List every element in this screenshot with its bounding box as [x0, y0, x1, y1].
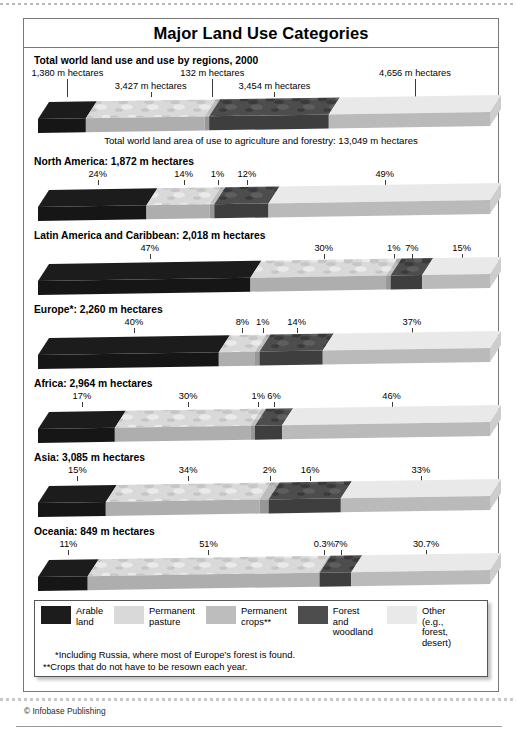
value-label: 2%	[263, 465, 276, 476]
value-label: 15%	[68, 465, 87, 476]
bar-segment-top	[38, 188, 157, 207]
bar-segment-front	[422, 274, 490, 289]
bar-container	[32, 257, 490, 295]
bar-segment-front	[209, 114, 329, 130]
bar-segment-top	[259, 334, 333, 352]
legend-swatch	[41, 606, 71, 624]
bar-segment-front	[38, 205, 146, 221]
bar-segment-front	[323, 348, 490, 365]
bar-segment-top	[115, 409, 262, 428]
world-total-caption: Total world land area of use to agricult…	[32, 135, 490, 147]
bar-segment-front	[214, 203, 268, 218]
legend-item: Arable land	[41, 606, 103, 627]
value-label: 6%	[267, 391, 280, 402]
bar-container	[32, 405, 490, 443]
bar-row: Europe*: 2,260 m hectares40%8%1%14%37%	[32, 304, 490, 369]
bar-segment-top	[269, 481, 352, 499]
bar-segment-front	[269, 498, 341, 513]
row-value-labels: 17%30%1%6%46%	[32, 391, 490, 405]
bar-row: Asia: 3,085 m hectares15%34%2%16%33%	[32, 452, 490, 517]
bar-3d	[32, 331, 502, 371]
legend-footnote-1: *Including Russia, where most of Europe’…	[55, 649, 481, 660]
bar-segment-front	[38, 428, 115, 443]
chart-body: Total world land use and use by regions,…	[24, 48, 498, 677]
value-label: 7%	[334, 539, 347, 550]
bar-segment-front	[106, 500, 260, 516]
value-label: 3,454 m hectares	[239, 81, 311, 92]
value-label: 1%	[211, 169, 224, 180]
bar-segment-top	[38, 261, 261, 281]
bar-segment-top	[250, 259, 397, 278]
bar-segment-front	[38, 576, 88, 591]
bar-segment-top	[269, 183, 501, 203]
legend-label: Permanent pasture	[149, 606, 195, 627]
value-label: 40%	[125, 317, 144, 328]
bar-segment-front	[341, 496, 490, 512]
row-heading: North America: 1,872 m hectares	[34, 156, 490, 168]
bar-segment-front	[146, 204, 209, 219]
bar-segment-front	[318, 573, 319, 587]
value-label: 11%	[59, 539, 77, 550]
bar-segment-top	[329, 95, 501, 114]
value-label: 51%	[199, 539, 218, 550]
row-value-labels: 47%30%1%7%15%	[32, 243, 490, 257]
legend-item: Permanent crops**	[206, 606, 287, 627]
value-label: 15%	[452, 243, 471, 254]
bar-segment-front	[320, 572, 352, 586]
legend-label: Arable land	[76, 606, 103, 627]
bar-segment-front	[38, 352, 219, 369]
bar-segment-top	[38, 485, 117, 503]
bar-segment-top	[351, 553, 501, 572]
row-heading: Oceania: 849 m hectares	[34, 526, 490, 538]
bar-segment-front	[38, 502, 106, 517]
bar-row: Oceania: 849 m hectares11%51%0.3%7%30.7%	[32, 526, 490, 591]
row-value-labels: 40%8%1%14%37%	[32, 317, 490, 331]
value-label: 4,656 m hectares	[379, 68, 451, 79]
row-heading: Total world land use and use by regions,…	[34, 55, 490, 67]
legend-item: Forest and woodland	[298, 606, 376, 638]
bar-segment-front	[255, 352, 260, 366]
bar-segment-front	[386, 276, 391, 290]
row-value-labels: 15%34%2%16%33%	[32, 465, 490, 479]
value-label: 1%	[256, 317, 269, 328]
legend-item: Other (e.g., forest, desert)	[387, 606, 470, 648]
value-label: 33%	[412, 465, 431, 476]
bar-segment-front	[250, 426, 255, 440]
row-heading: Europe*: 2,260 m hectares	[34, 304, 490, 316]
bar-segment-top	[422, 257, 501, 275]
chart-panel: Major Land Use Categories Total world la…	[23, 18, 499, 692]
value-label: 24%	[88, 169, 107, 180]
value-label: 8%	[236, 317, 249, 328]
page-title: Major Land Use Categories	[153, 24, 368, 43]
legend-label: Other (e.g., forest, desert)	[422, 606, 470, 648]
value-label: 7%	[405, 243, 418, 254]
bar-3d	[32, 183, 502, 223]
bar-segment-top	[38, 335, 230, 355]
legend-item: Permanent pasture	[114, 606, 195, 627]
bar-segment-top	[209, 97, 340, 116]
bar-container	[32, 553, 490, 591]
bar-3d	[32, 479, 502, 519]
bar-3d	[32, 95, 502, 135]
bar-rows: Total world land use and use by regions,…	[32, 55, 490, 591]
bar-segment-top	[282, 405, 501, 425]
value-label: 1%	[251, 391, 264, 402]
value-label: 37%	[403, 317, 422, 328]
bar-segment-front	[259, 351, 322, 366]
legend-label: Forest and woodland	[333, 606, 376, 638]
bar-row: North America: 1,872 m hectares24%14%1%1…	[32, 156, 490, 221]
value-label: 30%	[179, 391, 198, 402]
legend-swatch	[298, 606, 328, 624]
row-value-labels: 24%14%1%12%49%	[32, 169, 490, 183]
bar-container	[32, 95, 490, 133]
bar-3d	[32, 257, 502, 297]
scan-edge-bottom	[0, 698, 516, 701]
bar-container	[32, 331, 490, 369]
value-label: 30.7%	[413, 539, 439, 550]
value-label: 14%	[287, 317, 306, 328]
bar-segment-front	[250, 276, 386, 292]
bar-segment-front	[115, 426, 251, 442]
legend-footnote-2: **Crops that do not have to be resown ea…	[43, 661, 481, 672]
value-label: 47%	[140, 243, 159, 254]
bar-segment-front	[255, 425, 282, 439]
